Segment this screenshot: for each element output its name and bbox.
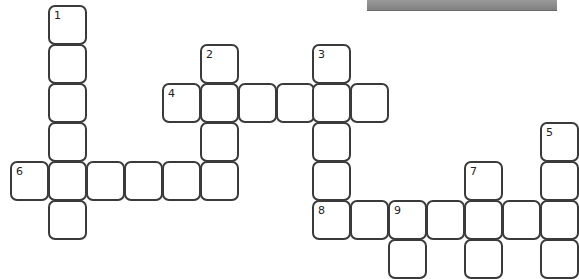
crossword-cell[interactable] <box>312 161 351 201</box>
crossword-cell[interactable] <box>388 239 427 279</box>
crossword-cell[interactable] <box>48 200 87 240</box>
clue-number: 6 <box>16 166 23 177</box>
crossword-cell[interactable] <box>48 44 87 84</box>
crossword-cell[interactable]: 7 <box>464 161 503 201</box>
crossword-cell[interactable] <box>426 200 465 240</box>
clue-number: 8 <box>318 205 325 216</box>
crossword-cell[interactable] <box>540 239 579 279</box>
clue-number: 2 <box>206 49 213 60</box>
clue-number: 1 <box>54 10 61 21</box>
crossword-cell[interactable]: 9 <box>388 200 427 240</box>
crossword-cell[interactable] <box>502 200 541 240</box>
clue-number: 5 <box>546 127 553 138</box>
crossword-cell[interactable] <box>86 161 125 201</box>
clue-number: 7 <box>470 166 477 177</box>
crossword-cell[interactable]: 8 <box>312 200 351 240</box>
crossword-cell[interactable] <box>162 161 201 201</box>
crossword-cell[interactable] <box>238 83 277 123</box>
crossword-cell[interactable] <box>350 83 389 123</box>
clue-number: 9 <box>394 205 401 216</box>
crossword-cell[interactable]: 5 <box>540 122 579 162</box>
crossword-cell[interactable] <box>540 161 579 201</box>
crossword-cell[interactable]: 4 <box>162 83 201 123</box>
crossword-cell[interactable]: 3 <box>312 44 351 84</box>
crossword-cell[interactable]: 6 <box>10 161 49 201</box>
crossword-cell[interactable] <box>464 200 503 240</box>
crossword-cell[interactable] <box>312 83 351 123</box>
crossword-cell[interactable] <box>312 122 351 162</box>
crossword-cell[interactable] <box>350 200 389 240</box>
crossword-cell[interactable] <box>200 83 239 123</box>
clue-number: 4 <box>168 88 175 99</box>
crossword-cell[interactable] <box>124 161 163 201</box>
crossword-cell[interactable] <box>200 122 239 162</box>
crossword-cell[interactable] <box>48 161 87 201</box>
crossword-cell[interactable] <box>464 239 503 279</box>
crossword-cell[interactable] <box>276 83 315 123</box>
crossword-cell[interactable] <box>48 83 87 123</box>
crossword-cell[interactable] <box>48 122 87 162</box>
crossword-cell[interactable] <box>540 200 579 240</box>
crossword-cell[interactable]: 1 <box>48 5 87 45</box>
clue-number: 3 <box>318 49 325 60</box>
crossword-cell[interactable] <box>200 161 239 201</box>
crossword-cell[interactable]: 2 <box>200 44 239 84</box>
